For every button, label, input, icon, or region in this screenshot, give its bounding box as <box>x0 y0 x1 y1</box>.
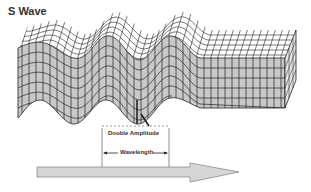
s-wave-illustration <box>0 0 311 192</box>
propagation-direction-arrow <box>37 163 239 182</box>
wavelength-label: Wavelength <box>120 149 153 155</box>
double-amplitude-label: Double Amplitude <box>108 130 159 136</box>
